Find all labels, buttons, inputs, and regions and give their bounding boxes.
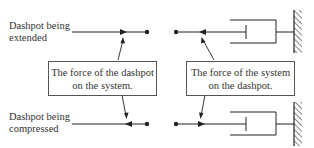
fixed-wall-icon: [294, 102, 302, 146]
extended-system-force: [72, 29, 149, 35]
callout-line: on the system.: [49, 79, 156, 92]
callout-pointers-top: [118, 37, 214, 60]
callout-box-system-force: The force of the system on the dashpot.: [186, 61, 295, 96]
compressed-dashpot: [174, 102, 302, 146]
callout-line: The force of the system: [187, 66, 294, 79]
arrowhead-right-icon: [198, 121, 205, 127]
label-line: Dashpot being: [9, 111, 70, 123]
arrowhead-right-icon: [120, 29, 127, 35]
node-dot-icon: [145, 30, 149, 34]
fixed-wall-icon: [294, 10, 302, 53]
arrowhead-left-icon: [199, 29, 206, 35]
label-line: extended: [9, 32, 70, 44]
label-line: Dashpot being: [9, 20, 70, 32]
label-dashpot-extended: Dashpot being extended: [9, 20, 70, 44]
node-dot-icon: [145, 122, 149, 126]
compressed-system-force: [72, 121, 149, 127]
callout-box-dashpot-force: The force of the dashpot on the system.: [48, 61, 157, 96]
label-dashpot-compressed: Dashpot being compressed: [9, 111, 70, 135]
extended-dashpot: [174, 10, 302, 53]
callout-line: on the dashpot.: [187, 79, 294, 92]
callout-line: The force of the dashpot: [49, 66, 156, 79]
arrowhead-left-icon: [125, 121, 132, 127]
callout-pointers-bottom: [122, 95, 205, 119]
label-line: compressed: [9, 123, 70, 135]
